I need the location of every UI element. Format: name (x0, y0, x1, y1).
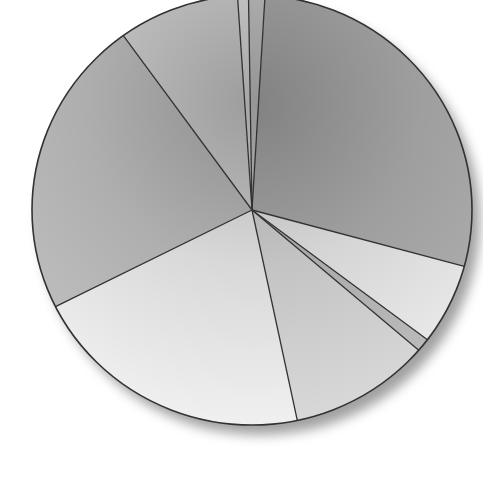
pie-chart (0, 0, 483, 480)
pie-chart-canvas (0, 0, 483, 480)
